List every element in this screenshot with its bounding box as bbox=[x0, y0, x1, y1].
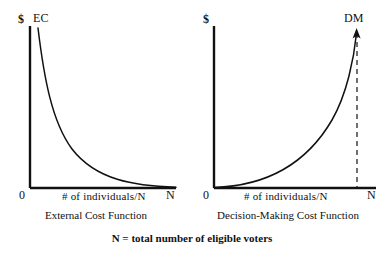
decision-making-cost-curve bbox=[214, 34, 356, 188]
origin-label: 0 bbox=[203, 190, 209, 201]
external-cost-curve bbox=[38, 28, 176, 187]
figure-footnote: N = total number of eligible voters bbox=[0, 232, 384, 244]
panel-external-cost: $ EC 0 # of individuals/N N External Cos… bbox=[0, 0, 192, 232]
origin-label: 0 bbox=[19, 190, 25, 201]
external-cost-curve-label: EC bbox=[33, 13, 49, 24]
x-axis-label: # of individuals/N bbox=[244, 191, 328, 202]
external-cost-plot bbox=[0, 0, 192, 200]
panel-decision-making-cost: $ DM 0 # of individuals/N N Decision-Mak… bbox=[192, 0, 384, 232]
decision-making-cost-plot bbox=[192, 0, 384, 200]
y-axis-label: $ bbox=[18, 14, 24, 25]
y-axis-label: $ bbox=[203, 14, 209, 25]
panel-caption: External Cost Function bbox=[0, 209, 192, 221]
x-max-label: N bbox=[367, 190, 376, 201]
x-axis-label: # of individuals/N bbox=[62, 191, 146, 202]
x-max-label: N bbox=[166, 190, 175, 201]
decision-making-cost-curve-label: DM bbox=[344, 13, 364, 24]
panel-caption: Decision-Making Cost Function bbox=[192, 209, 384, 221]
cost-functions-figure: $ EC 0 # of individuals/N N External Cos… bbox=[0, 0, 384, 255]
